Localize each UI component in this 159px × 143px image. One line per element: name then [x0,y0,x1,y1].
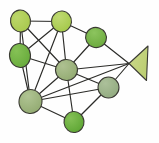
graph-node[interactable] [17,88,44,116]
graph-node[interactable] [98,77,119,98]
graph-node[interactable] [8,43,31,69]
graph-node[interactable] [50,10,72,33]
graph-node[interactable] [83,25,109,51]
graph-diagram-canvas [0,0,159,143]
node-layer [8,9,148,134]
cone-marker[interactable] [129,46,148,81]
